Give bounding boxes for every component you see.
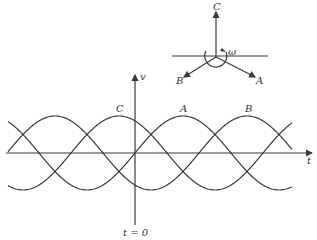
waveforms: C A B (8, 103, 292, 190)
rotation-arrow-icon (220, 48, 226, 52)
phasor-label-a: A (255, 75, 263, 86)
curve-label-a: A (179, 103, 187, 114)
phasor-label-b: B (175, 75, 183, 86)
omega-label: ω (228, 46, 236, 57)
phasor-label-c: C (213, 1, 221, 12)
waveform-axes: v t t = 0 (6, 71, 312, 238)
axis-label-t: t (307, 155, 312, 166)
curve-label-b: B (244, 103, 252, 114)
phasor-b-arrow (184, 57, 216, 77)
origin-label: t = 0 (123, 227, 149, 238)
phasor-diagram: C B A ω (172, 1, 268, 86)
axis-label-v: v (140, 71, 146, 82)
curve-label-c: C (116, 103, 124, 114)
phasor-a-arrow (216, 57, 255, 77)
three-phase-diagram: C B A ω v t t = 0 C A B (0, 0, 317, 240)
